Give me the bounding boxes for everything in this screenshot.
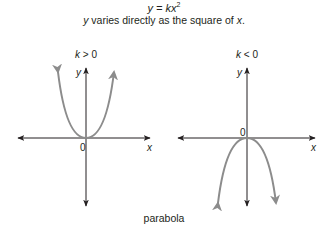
origin-label: 0	[80, 142, 86, 153]
graph-k-positive: k > 0 y x 0	[18, 49, 153, 206]
condition-label: k > 0	[75, 49, 97, 60]
x-axis-label: x	[310, 142, 317, 153]
condition-label: k < 0	[236, 49, 258, 60]
graph-k-negative: k < 0 y x 0	[178, 49, 317, 206]
origin-label: 0	[240, 127, 246, 138]
x-axis-label: x	[146, 142, 153, 153]
y-axis-label: y	[236, 67, 243, 78]
diagram-canvas: k > 0 y x 0 k < 0 y x 0	[0, 0, 328, 228]
caption: parabola	[0, 212, 328, 224]
y-axis-label: y	[75, 67, 82, 78]
